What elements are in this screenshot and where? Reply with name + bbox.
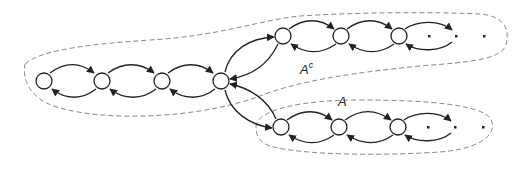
lower-chain-edges (287, 112, 451, 143)
upper-chain-edges (289, 21, 452, 52)
region-a-complement-label: Ac (299, 60, 314, 77)
region-a-outline (256, 100, 492, 154)
state-node (275, 28, 291, 44)
lower-ellipsis-dots (427, 126, 485, 129)
state-node (331, 119, 347, 135)
markov-chain-diagram: Ac A (0, 0, 517, 170)
state-node (273, 119, 289, 135)
left-chain-nodes (36, 73, 229, 89)
branch-edges (225, 37, 278, 128)
left-chain-edges (50, 65, 215, 98)
upper-chain-nodes (275, 28, 407, 44)
state-node (391, 28, 407, 44)
state-node (333, 28, 349, 44)
lower-chain-nodes (273, 119, 406, 135)
hub-node (213, 73, 229, 89)
state-node (94, 73, 110, 89)
region-a-label: A (337, 94, 347, 109)
state-node (154, 73, 170, 89)
state-node (390, 119, 406, 135)
upper-ellipsis-dots (428, 35, 486, 38)
state-node (36, 73, 52, 89)
region-a-complement-outline (24, 13, 507, 116)
